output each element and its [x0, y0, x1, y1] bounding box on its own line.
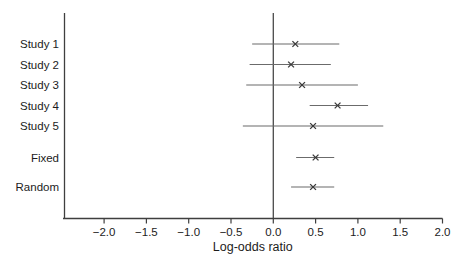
row-label-study-2: Study 2: [20, 59, 59, 71]
x-axis-tick-label: −1.0: [177, 226, 200, 238]
x-axis-tick-label: −2.0: [93, 226, 116, 238]
forest-plot-figure: −2.0−1.5−1.0−0.50.00.51.01.52.0Log-odds …: [0, 0, 462, 266]
row-label-study-4: Study 4: [20, 100, 60, 112]
x-axis-tick-label: −0.5: [220, 226, 243, 238]
x-axis-title: Log-odds ratio: [213, 240, 293, 254]
row-label-random: Random: [16, 181, 59, 193]
forest-plot-canvas: −2.0−1.5−1.0−0.50.00.51.01.52.0Log-odds …: [0, 0, 462, 266]
row-label-study-1: Study 1: [20, 38, 59, 50]
x-axis-tick-label: 1.5: [392, 226, 408, 238]
x-axis-tick-label: −1.5: [135, 226, 158, 238]
row-label-study-3: Study 3: [20, 79, 59, 91]
row-label-fixed: Fixed: [31, 152, 59, 164]
row-label-study-5: Study 5: [20, 120, 59, 132]
x-axis-tick-label: 1.0: [350, 226, 366, 238]
x-axis-tick-label: 0.0: [265, 226, 281, 238]
x-axis-tick-label: 0.5: [308, 226, 324, 238]
x-axis-tick-label: 2.0: [435, 226, 451, 238]
